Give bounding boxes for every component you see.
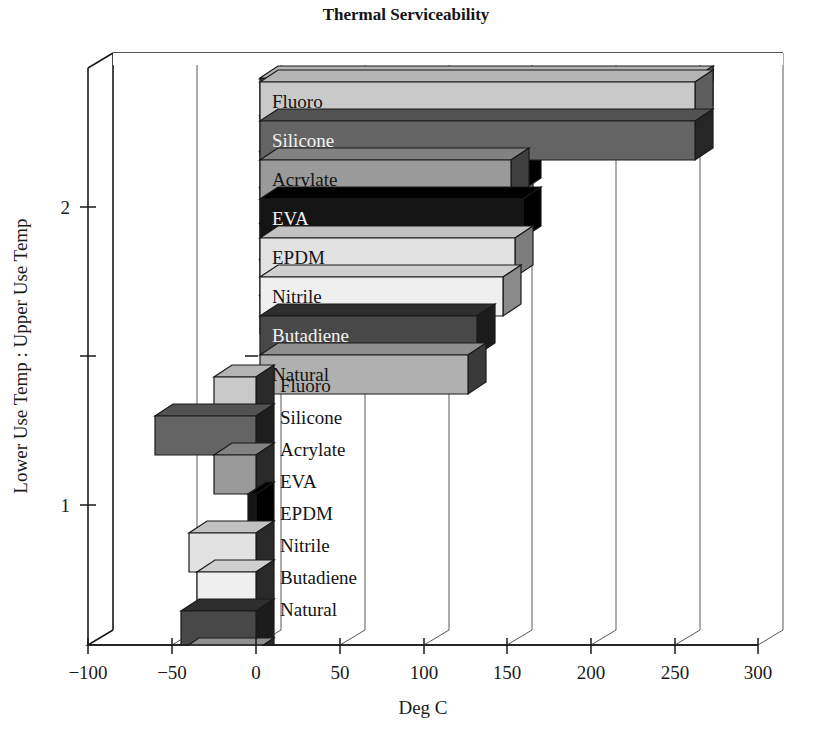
lower-label-acrylate: Acrylate bbox=[280, 439, 345, 460]
x-tick-label--50: −50 bbox=[157, 662, 187, 683]
x-tick-label-150: 150 bbox=[493, 662, 522, 683]
top-trim bbox=[113, 53, 783, 65]
lower-label-eva: EVA bbox=[280, 471, 317, 492]
chart-title: Thermal Serviceability bbox=[323, 5, 490, 24]
x-tick-label-0: 0 bbox=[251, 662, 261, 683]
thermal-serviceability-chart: Thermal Serviceability bbox=[0, 0, 813, 735]
x-tick-label-100: 100 bbox=[410, 662, 439, 683]
chart-container: Thermal Serviceability bbox=[0, 0, 813, 735]
x-tick-label-200: 200 bbox=[577, 662, 606, 683]
x-tick-label--100: −100 bbox=[68, 662, 107, 683]
lower-label-fluoro: Fluoro bbox=[280, 375, 331, 396]
y-tick-label-2: 2 bbox=[61, 197, 71, 218]
x-tick-label-250: 250 bbox=[661, 662, 690, 683]
y-axis-title: Lower Use Temp : Upper Use Temp bbox=[10, 218, 31, 493]
lower-label-natural: Natural bbox=[280, 599, 337, 620]
y-tick-label-1: 1 bbox=[61, 495, 71, 516]
lower-label-butadiene: Butadiene bbox=[280, 567, 357, 588]
x-axis-title: Deg C bbox=[398, 697, 447, 718]
x-tick-label-300: 300 bbox=[744, 662, 773, 683]
lower-label-epdm: EPDM bbox=[280, 503, 333, 524]
below-axis-mask bbox=[88, 646, 788, 735]
lower-label-nitrile: Nitrile bbox=[280, 535, 330, 556]
x-tick-label-50: 50 bbox=[331, 662, 350, 683]
lower-label-silicone: Silicone bbox=[280, 407, 342, 428]
